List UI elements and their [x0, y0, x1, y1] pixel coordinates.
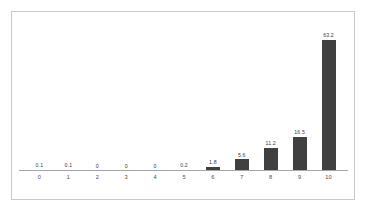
bar-column: 1.8: [198, 20, 227, 171]
x-axis-tick-label: 10: [314, 175, 343, 181]
x-axis-tick-label: 9: [285, 175, 314, 181]
bar-series: 0.10.10000.21.85.611.216.563.2: [25, 20, 343, 171]
bar-value-label: 0: [125, 164, 128, 169]
bar-column: 0.1: [54, 20, 83, 171]
plot-frame: 0.10.10000.21.85.611.216.563.2 012345678…: [11, 11, 355, 200]
x-axis-tick-label: 4: [141, 175, 170, 181]
x-axis-tick-label: 0: [25, 175, 54, 181]
caption-fragment: [24, 207, 224, 215]
plot-area: 0.10.10000.21.85.611.216.563.2 012345678…: [12, 12, 354, 199]
bar-column: 0.1: [25, 20, 54, 171]
bar-value-label: 0: [96, 164, 99, 169]
x-axis-tick-label: 6: [198, 175, 227, 181]
bar-value-label: 0.2: [180, 163, 188, 168]
bar-column: 0: [141, 20, 170, 171]
x-axis-tick-label: 8: [256, 175, 285, 181]
bar-value-label: 5.6: [238, 153, 246, 158]
bar-value-label: 0: [154, 164, 157, 169]
x-axis-tick-label: 2: [83, 175, 112, 181]
bar-value-label: 1.8: [209, 160, 217, 165]
bar-column: 16.5: [285, 20, 314, 171]
bar-column: 0.2: [170, 20, 199, 171]
x-axis-tick-label: 1: [54, 175, 83, 181]
bar-column: 5.6: [227, 20, 256, 171]
bar-value-label: 11.2: [266, 141, 276, 146]
x-axis-tick-labels: 012345678910: [25, 175, 343, 187]
x-axis-line: [19, 170, 348, 171]
bar: [293, 137, 307, 171]
bar-value-label: 63.2: [323, 33, 334, 38]
chart-figure: 0.10.10000.21.85.611.216.563.2 012345678…: [0, 0, 366, 219]
x-axis-tick-label: 3: [112, 175, 141, 181]
bar-column: 0: [83, 20, 112, 171]
bar-column: 63.2: [314, 20, 343, 171]
bar: [264, 148, 278, 171]
bar: [322, 40, 336, 171]
bar-value-label: 16.5: [294, 130, 305, 135]
bar-value-label: 0.1: [36, 163, 44, 168]
bar-column: 0: [112, 20, 141, 171]
bar-column: 11.2: [256, 20, 285, 171]
x-axis-tick-label: 5: [170, 175, 199, 181]
bar-value-label: 0.1: [65, 163, 73, 168]
x-axis-tick-label: 7: [227, 175, 256, 181]
